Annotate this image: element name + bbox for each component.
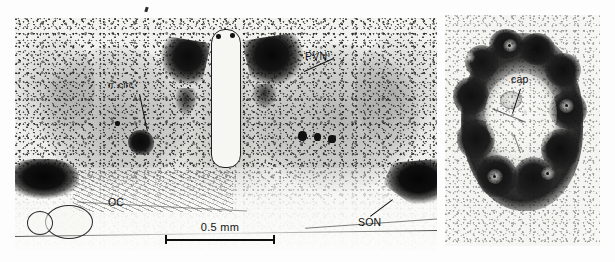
panel-b-high-magnification: cap [445,15,600,246]
pvn-right-tail [251,84,281,118]
scale-bar: 0.5 mm [165,221,275,244]
panel-b-grain [445,15,600,246]
label-oc: OC [108,196,124,208]
figure-root: PVN n. circ OC SON 0.5 mm [0,0,615,262]
label-n-circ: n. circ [108,80,133,90]
nucleus-circularis [128,130,154,155]
accessory-cell-2 [314,133,321,141]
pvn-left-tail [173,88,199,124]
label-pvn: PVN [305,50,327,62]
plate-tick-mark [144,7,148,13]
accessory-cell-1 [298,131,307,141]
scale-bar-right-tick [273,235,275,244]
label-cap: cap [511,73,529,85]
label-son: SON [358,216,381,228]
panel-b-micrograph: cap [445,15,600,246]
ventricle-dot-left [216,34,221,39]
accessory-cell-3 [328,135,336,143]
panel-a-low-magnification: PVN n. circ OC SON 0.5 mm [15,18,437,250]
third-ventricle [211,29,241,168]
panel-a-micrograph: PVN n. circ OC SON 0.5 mm [15,18,437,250]
scale-bar-rule [165,239,275,241]
ventricle-dot-right [230,33,235,38]
scale-bar-line [165,235,275,244]
ventral-vessel-small [27,211,53,235]
scale-bar-label: 0.5 mm [165,221,275,233]
son-left-nucleus [15,159,79,200]
ncirc-satellite-speck [115,121,120,126]
